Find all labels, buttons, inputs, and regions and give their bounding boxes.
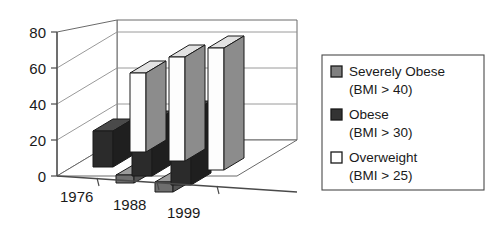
severely-obese-swatch	[331, 66, 342, 77]
bar-chart-figure: 80 60 40 20 0	[0, 0, 496, 227]
legend-detail-severely-obese: (BMI > 40)	[349, 82, 412, 97]
x-tick-label-1988: 1988	[113, 196, 146, 213]
x-tick-label-1999: 1999	[167, 204, 200, 221]
legend-label-overweight: Overweight	[349, 150, 418, 165]
legend-detail-obese: (BMI > 30)	[349, 125, 412, 140]
x-tick-label-1976: 1976	[60, 188, 93, 205]
bar-overweight-1988	[169, 45, 205, 161]
y-tick-label-80: 80	[29, 24, 46, 41]
legend-detail-overweight: (BMI > 25)	[349, 168, 412, 183]
legend-label-severely-obese: Severely Obese	[349, 64, 445, 79]
legend: Severely Obese (BMI > 40) Obese (BMI > 3…	[322, 55, 484, 190]
y-tick-label-60: 60	[29, 60, 46, 77]
obese-swatch	[331, 109, 342, 120]
overweight-swatch	[331, 152, 342, 163]
y-tick-label-0: 0	[38, 168, 46, 185]
y-tick-label-40: 40	[29, 96, 46, 113]
y-tick-label-20: 20	[29, 132, 46, 149]
legend-label-obese: Obese	[349, 107, 389, 122]
bar-overweight-1976	[130, 61, 166, 152]
chart-svg: 80 60 40 20 0	[0, 0, 496, 227]
y-axis: 80 60 40 20 0	[29, 24, 57, 185]
bar-overweight-1999	[208, 36, 244, 170]
